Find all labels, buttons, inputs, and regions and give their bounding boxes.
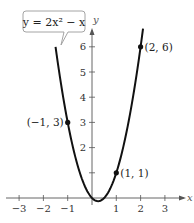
x-tick-label: 2 bbox=[137, 203, 143, 214]
x-axis-label: x bbox=[187, 192, 193, 203]
y-tick-label: 2 bbox=[80, 142, 86, 153]
data-points: (−1, 3)(1, 1)(2, 6) bbox=[27, 41, 173, 179]
y-tick-label: 5 bbox=[80, 67, 86, 78]
x-tick-label: −2 bbox=[36, 203, 51, 214]
x-tick-label: 3 bbox=[162, 203, 168, 214]
equation-callout: y = 2x² − x bbox=[22, 11, 86, 45]
y-ticks: 23456 bbox=[80, 41, 95, 173]
y-tick-label: 3 bbox=[80, 117, 86, 128]
y-axis-label: y bbox=[92, 14, 99, 25]
data-point-label: (2, 6) bbox=[145, 41, 173, 53]
data-point-label: (1, 1) bbox=[120, 167, 148, 179]
x-tick-label: −1 bbox=[60, 203, 75, 214]
data-point-label: (−1, 3) bbox=[27, 116, 64, 128]
y-axis-arrow-icon bbox=[90, 28, 95, 35]
equation-label: y = 2x² − x bbox=[22, 16, 86, 29]
parabola-chart: x y −3−2−1123 23456 (−1, 3)(1, 1)(2, 6) … bbox=[0, 0, 194, 223]
data-point-marker bbox=[65, 120, 70, 125]
x-axis-arrow-icon bbox=[179, 196, 186, 201]
data-point-marker bbox=[138, 44, 143, 49]
data-point-marker bbox=[114, 170, 119, 175]
x-tick-label: −3 bbox=[12, 203, 27, 214]
x-tick-label: 1 bbox=[113, 203, 119, 214]
y-tick-label: 4 bbox=[80, 92, 86, 103]
y-tick-label: 6 bbox=[80, 41, 86, 52]
